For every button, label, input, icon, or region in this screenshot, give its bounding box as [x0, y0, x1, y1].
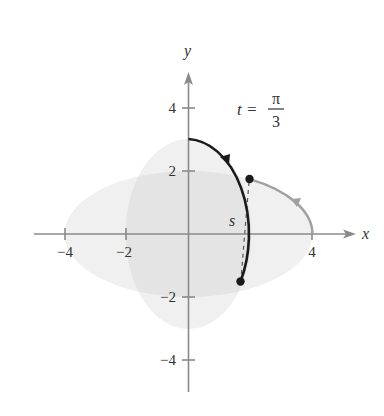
x-tick-label: −4	[57, 244, 73, 260]
x-tick-label: 4	[308, 244, 316, 260]
x-tick-label: −2	[116, 244, 132, 260]
parametric-ellipses-figure: x y −4 −2 4 4 2 −2 −4 s t = π 3	[0, 0, 384, 416]
pi-numerator: π	[272, 90, 280, 107]
y-tick-label: −2	[160, 289, 176, 305]
x-axis-label: x	[361, 225, 369, 242]
gray-endpoint-dot	[245, 175, 253, 183]
y-tick-label: −4	[160, 352, 176, 368]
y-axis-label: y	[182, 42, 192, 60]
parameter-annotation: t = π 3	[237, 90, 284, 130]
segment-s-label: s	[229, 212, 235, 229]
y-tick-label: 2	[169, 163, 177, 179]
black-endpoint-dot	[236, 277, 244, 285]
t-equals-label: t =	[237, 100, 257, 119]
y-tick-label: 4	[169, 100, 177, 116]
denominator-3: 3	[272, 113, 280, 130]
